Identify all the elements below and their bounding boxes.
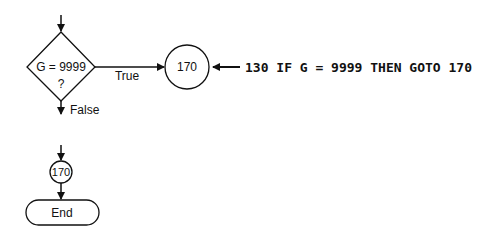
flowchart: G = 9999 ? True 170 130 IF G = 9999 THEN… — [0, 0, 482, 238]
false-label: False — [70, 103, 100, 117]
end-label: End — [51, 206, 72, 220]
true-label: True — [115, 69, 140, 83]
decision-diamond: G = 9999 ? — [27, 32, 95, 101]
code-annotation: 130 IF G = 9999 THEN GOTO 170 — [245, 60, 472, 75]
connector-top-label: 170 — [177, 60, 197, 74]
decision-condition: G = 9999 — [36, 60, 86, 74]
connector-170-bottom: 170 — [50, 161, 72, 183]
decision-question-mark: ? — [58, 77, 65, 91]
connector-170-top: 170 — [165, 45, 209, 89]
end-terminator: End — [26, 200, 99, 225]
connector-bottom-label: 170 — [52, 166, 70, 178]
